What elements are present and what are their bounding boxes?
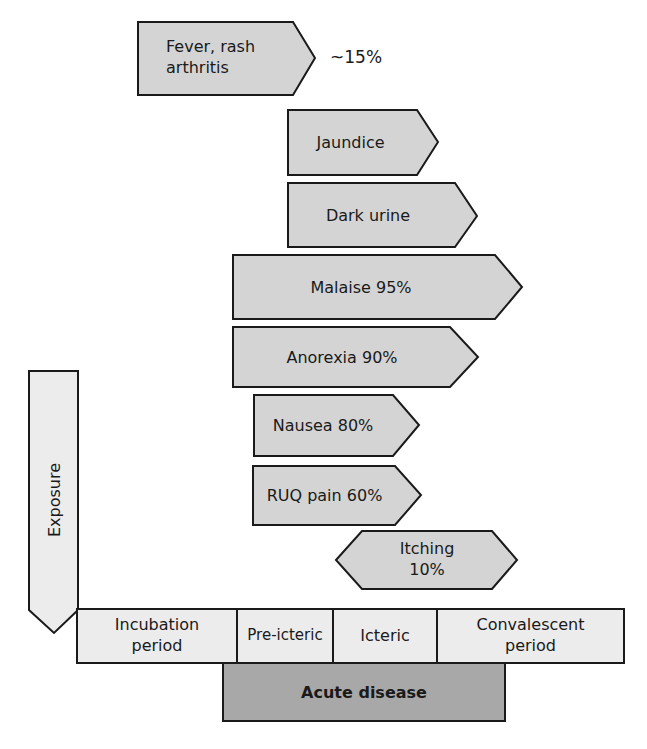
ruq-pain-label: RUQ pain 60% <box>253 485 396 506</box>
convalescent-label: Convalescent period <box>437 614 624 656</box>
exposure-label: Exposure <box>44 463 65 537</box>
fever-rash-percentage: ~15% <box>330 47 382 68</box>
nausea-label: Nausea 80% <box>254 415 392 436</box>
itching-label: Itching 10% <box>362 538 492 580</box>
fever-rash-label: Fever, rash arthritis <box>166 36 255 78</box>
acute-disease-label: Acute disease <box>223 682 505 703</box>
preicteric-label: Pre-icteric <box>237 625 333 646</box>
fever-rash-line1: Fever, rash <box>166 36 255 57</box>
incubation-line2: period <box>77 635 237 656</box>
malaise-label: Malaise 95% <box>233 277 489 298</box>
anorexia-label: Anorexia 90% <box>233 347 451 368</box>
convalescent-line2: period <box>437 635 624 656</box>
incubation-label: Incubation period <box>77 614 237 656</box>
itching-line2: 10% <box>362 559 492 580</box>
fever-rash-line2: arthritis <box>166 57 255 78</box>
convalescent-line1: Convalescent <box>437 614 624 635</box>
dark-urine-label: Dark urine <box>288 205 448 226</box>
incubation-line1: Incubation <box>77 614 237 635</box>
jaundice-label: Jaundice <box>288 132 413 153</box>
icteric-label: Icteric <box>333 625 437 646</box>
itching-line1: Itching <box>362 538 492 559</box>
